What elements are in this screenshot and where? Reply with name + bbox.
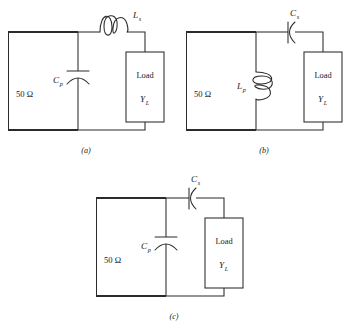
- capacitor-curved-plate-icon: [191, 188, 197, 209]
- circuit-c-caption: (c): [169, 312, 178, 321]
- circuit-a-series-wire-right: [127, 32, 145, 52]
- circuit-a-load-label: Load: [136, 71, 154, 80]
- inductor-coil-icon: [100, 16, 128, 35]
- circuit-b-load-return-wire: [256, 122, 323, 130]
- circuit-a-load-admittance-label: YL: [140, 94, 150, 106]
- circuit-b-lp-label: Lp: [236, 81, 246, 93]
- circuit-c-load-label: Load: [215, 237, 233, 246]
- circuit-c-cs-label: Cs: [191, 174, 201, 186]
- circuit-a-load-return-wire: [78, 122, 145, 130]
- circuit-a-load-box: [126, 52, 164, 122]
- circuit-b-caption: (b): [259, 146, 269, 155]
- circuit-c-series-wire-right: [196, 198, 224, 218]
- capacitor-curved-plate-icon: [290, 22, 296, 43]
- circuit-a-inductor-ls: [100, 16, 128, 35]
- circuit-a-cp-label: Cp: [53, 75, 63, 87]
- circuit-c-load-box: [205, 218, 243, 288]
- circuit-a: Cp Ls Load YL 50 Ω (a): [8, 10, 164, 155]
- circuit-c-load-admittance-label: YL: [219, 260, 229, 272]
- circuit-c-capacitor-cs: [189, 188, 196, 209]
- inductor-coil-icon: [253, 72, 272, 100]
- circuit-c-cp-label: Cp: [141, 241, 151, 253]
- circuit-c-load-return-wire: [166, 288, 224, 296]
- circuit-b: Lp Cs Load YL 50 Ω (b): [186, 8, 342, 155]
- circuit-a-ls-label: Ls: [132, 10, 142, 22]
- circuit-c: Cp Cs Load YL 50 Ω (c): [96, 174, 243, 321]
- circuit-b-load-admittance-label: YL: [318, 94, 328, 106]
- circuit-c-source-impedance-label: 50 Ω: [104, 255, 121, 265]
- circuit-b-load-label: Load: [314, 71, 332, 80]
- circuit-a-caption: (a): [81, 146, 91, 155]
- circuit-diagram: Cp Ls Load YL 50 Ω (a): [0, 0, 353, 328]
- circuit-b-source-impedance-label: 50 Ω: [194, 89, 211, 99]
- circuit-b-series-wire-right: [295, 32, 323, 52]
- circuit-b-capacitor-cs: [288, 22, 295, 43]
- circuit-a-source-impedance-label: 50 Ω: [16, 89, 33, 99]
- figure-root: Cp Ls Load YL 50 Ω (a): [0, 0, 353, 328]
- circuit-b-cs-label: Cs: [290, 8, 300, 20]
- circuit-b-load-box: [304, 52, 342, 122]
- circuit-b-inductor-lp: [253, 72, 272, 100]
